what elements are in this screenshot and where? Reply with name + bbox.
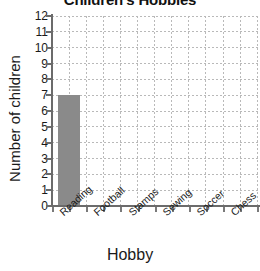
x-axis-category-labels: ReadingFootballStampsSewingSoccerChess [52, 209, 260, 249]
y-tick-label: 4 [26, 137, 48, 149]
y-axis-title: Number of children [6, 19, 23, 219]
y-tick-label: 11 [26, 26, 48, 38]
y-tick-label: 12 [26, 10, 48, 22]
y-tick-mark [46, 173, 53, 175]
chart-title: Children's Hobbies [0, 0, 260, 8]
y-tick-mark [46, 31, 53, 33]
y-tick-mark [46, 47, 53, 49]
y-tick-label: 7 [26, 89, 48, 101]
y-tick-mark [46, 126, 53, 128]
y-tick-mark [46, 94, 53, 96]
y-tick-label: 6 [26, 105, 48, 117]
bar-series [52, 16, 260, 206]
x-axis-title: Hobby [30, 246, 230, 264]
bar-chart: Children's Hobbies Number of children 01… [0, 0, 260, 271]
y-tick-label: 1 [26, 184, 48, 196]
y-tick-mark [46, 78, 53, 80]
y-tick-mark [46, 142, 53, 144]
y-tick-label: 5 [26, 121, 48, 133]
y-tick-mark [46, 63, 53, 65]
y-tick-mark [46, 110, 53, 112]
y-tick-label: 9 [26, 58, 48, 70]
y-tick-label: 8 [26, 73, 48, 85]
y-tick-mark [46, 189, 53, 191]
y-tick-label: 10 [26, 42, 48, 54]
y-tick-label: 0 [26, 200, 48, 212]
y-tick-mark [46, 158, 53, 160]
y-tick-label: 2 [26, 168, 48, 180]
y-tick-label: 3 [26, 153, 48, 165]
y-axis-tick-labels: 0123456789101112 [26, 16, 48, 206]
y-tick-mark [46, 15, 53, 17]
plot-area [52, 16, 260, 206]
